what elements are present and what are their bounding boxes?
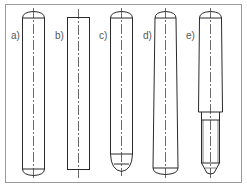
pin-c <box>111 8 133 176</box>
pin-label-a: a) <box>11 31 20 41</box>
pin-d <box>153 8 178 178</box>
pin-a <box>23 8 45 179</box>
pin-types-diagram <box>0 0 247 188</box>
pin-e <box>199 8 223 179</box>
pin-label-d: d) <box>143 31 152 41</box>
pin-label-b: b) <box>55 31 64 41</box>
pin-b <box>68 9 90 178</box>
figure-frame <box>6 5 242 183</box>
pin-label-c: c) <box>99 31 107 41</box>
pin-label-e: e) <box>186 31 195 41</box>
